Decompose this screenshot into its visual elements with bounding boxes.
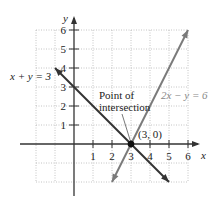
y-axis-label: y — [62, 12, 68, 24]
y-axis-arrow-icon — [71, 16, 77, 24]
y-tick-label: 1 — [61, 119, 67, 131]
equation-label-2: 2x − y = 6 — [161, 89, 208, 101]
y-tick-label: 3 — [61, 81, 67, 93]
annotation-point-of: Point of — [99, 89, 134, 101]
x-tick-label: 1 — [90, 150, 96, 162]
intersection-coord-label: (3, 0) — [138, 128, 162, 141]
intersection-point — [128, 141, 135, 148]
annotation-intersection: intersection — [99, 101, 151, 113]
y-tick-label: 2 — [61, 100, 67, 112]
graph-intersection: 123456123456 y x x + y = 3 2x − y = 6 Po… — [0, 0, 218, 205]
x-tick-label: 3 — [128, 150, 134, 162]
y-tick-label: 5 — [61, 43, 67, 55]
x-axis-label: x — [200, 149, 206, 161]
x-tick-label: 5 — [166, 150, 172, 162]
y-tick-label: 6 — [61, 24, 67, 36]
x-tick-label: 6 — [185, 150, 191, 162]
arrowhead-icon — [112, 173, 118, 182]
arrowhead-icon — [182, 30, 188, 39]
x-axis-arrow-icon — [192, 141, 200, 147]
x-tick-label: 2 — [109, 150, 115, 162]
equation-label-1: x + y = 3 — [9, 70, 52, 82]
